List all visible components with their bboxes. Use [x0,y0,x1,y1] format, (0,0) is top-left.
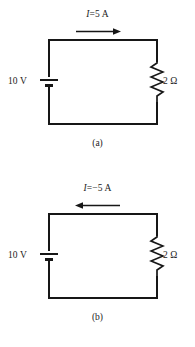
wire-right-lower-b [156,276,158,299]
current-label-a: I=5 A [0,10,195,20]
wire-top-b [48,213,158,215]
wire-bottom-b [48,297,158,299]
circuit-panel-a: I=5 A 10 V 2 Ω (a) [0,0,195,173]
wire-left-upper-b [48,213,50,251]
panel-caption-b: (b) [0,313,195,323]
battery-positive-plate-a [40,79,58,81]
current-arrow-b [0,201,195,210]
battery-icon-b [40,249,58,263]
battery-negative-plate-b [45,258,53,261]
battery-positive-plate-b [40,253,58,255]
current-value-b: −5 A [92,183,111,193]
wire-left-lower-b [48,261,50,299]
current-label-b: I=−5 A [0,184,195,194]
source-label-a: 10 V [8,77,27,87]
wire-left-upper-a [48,39,50,77]
battery-negative-plate-a [45,84,53,87]
circuit-panel-b: I=−5 A 10 V 2 Ω (b) [0,174,195,347]
wire-top-a [48,39,158,41]
current-arrow-a [0,27,195,36]
current-value-a: 5 A [95,9,109,19]
wire-right-lower-a [156,102,158,125]
panel-caption-a: (a) [0,139,195,149]
resistor-label-a: 2 Ω [163,77,178,87]
source-label-b: 10 V [8,251,27,261]
wire-left-lower-a [48,87,50,125]
wire-bottom-a [48,123,158,125]
resistor-label-b: 2 Ω [163,251,178,261]
circuit-loop-a [48,39,158,125]
wire-right-upper-a [156,39,158,62]
circuit-loop-b [48,213,158,299]
wire-right-upper-b [156,213,158,236]
battery-icon-a [40,75,58,89]
